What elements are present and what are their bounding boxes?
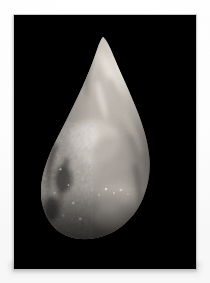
photo-frame	[13, 14, 197, 270]
hand-axe-illustration	[14, 15, 196, 268]
page-background	[0, 0, 210, 283]
photo-canvas	[14, 15, 196, 269]
